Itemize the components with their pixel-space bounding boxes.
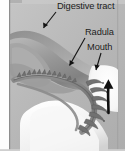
illustration-stage: Digestive tract Radula Mouth	[0, 0, 125, 151]
label-digestive-tract: Digestive tract	[57, 1, 114, 11]
figure-root: Digestive tract Radula Mouth	[0, 0, 125, 151]
left-margin	[0, 0, 9, 151]
label-mouth: Mouth	[87, 42, 112, 52]
label-radula: Radula	[85, 27, 114, 37]
anatomy-illustration	[0, 0, 125, 151]
